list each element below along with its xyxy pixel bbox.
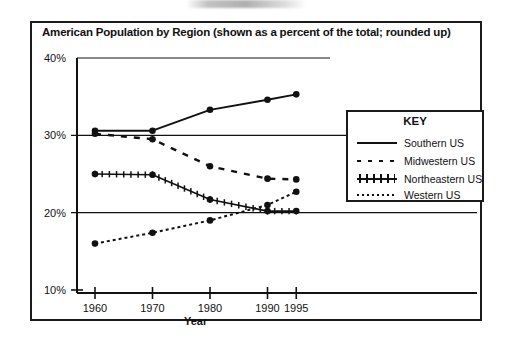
svg-text:10%: 10% — [44, 284, 66, 296]
legend-swatch-crosshatch-icon — [354, 172, 400, 186]
svg-text:30%: 30% — [44, 129, 66, 141]
svg-text:Year: Year — [184, 315, 208, 327]
legend-item-southern-us[interactable]: Southern US — [354, 134, 482, 151]
svg-text:1990: 1990 — [255, 302, 279, 314]
legend-label-southern-us: Southern US — [400, 137, 464, 149]
svg-text:20%: 20% — [44, 207, 66, 219]
legend-swatch-dotted-icon — [354, 188, 400, 202]
legend-swatch-dashed-icon — [354, 154, 400, 168]
legend-label-midwestern-us: Midwestern US — [400, 155, 475, 167]
legend-title: KEY — [348, 115, 482, 127]
svg-text:1970: 1970 — [140, 302, 164, 314]
chart-page: American Population by Region (shown as … — [0, 0, 505, 343]
svg-text:1980: 1980 — [198, 302, 222, 314]
svg-text:40%: 40% — [44, 52, 66, 64]
legend-item-western-us[interactable]: Western US — [354, 186, 482, 203]
legend-label-western-us: Western US — [400, 189, 460, 201]
svg-text:1995: 1995 — [284, 302, 308, 314]
svg-text:1960: 1960 — [83, 302, 107, 314]
legend-item-northeastern-us[interactable]: Northeastern US — [354, 170, 482, 187]
legend-item-midwestern-us[interactable]: Midwestern US — [354, 152, 482, 169]
legend-key-box: KEY Southern US Midwestern US Northeaste… — [346, 110, 484, 202]
legend-label-northeastern-us: Northeastern US — [400, 173, 482, 185]
legend-swatch-solid-icon — [354, 136, 400, 150]
